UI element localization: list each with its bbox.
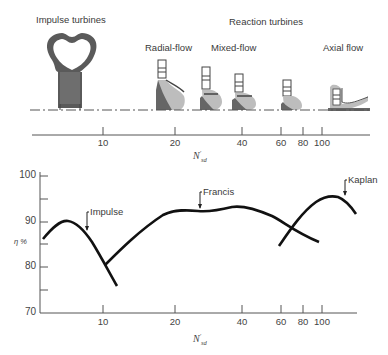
top-tick-100: 100 xyxy=(314,137,330,148)
y-tick-70: 70 xyxy=(16,306,36,317)
impulse-turbine-sketch xyxy=(47,33,96,110)
top-tick-40: 40 xyxy=(237,137,248,148)
top-scale-axis xyxy=(32,127,370,135)
mixed-flow-turbine-sketch-1 xyxy=(200,67,222,110)
x-tick-80: 80 xyxy=(298,316,309,327)
x-tick-10: 10 xyxy=(98,316,109,327)
efficiency-chart-axes xyxy=(40,172,357,313)
x-tick-20: 20 xyxy=(170,316,181,327)
radial-flow-turbine-sketch xyxy=(156,60,185,110)
high-speed-francis-sketch xyxy=(281,80,302,110)
kaplan-annotation: Kaplan xyxy=(348,174,378,185)
y-axis-label: η % xyxy=(14,237,27,246)
x-tick-100: 100 xyxy=(314,316,330,327)
x-tick-60: 60 xyxy=(276,316,287,327)
top-tick-80: 80 xyxy=(298,137,309,148)
top-tick-10: 10 xyxy=(98,137,109,148)
x-axis-label: N′sd xyxy=(193,333,207,346)
mixed-flow-turbine-sketch-2 xyxy=(232,74,256,110)
y-tick-80: 80 xyxy=(16,260,36,271)
diagram-canvas xyxy=(0,0,388,355)
top-tick-20: 20 xyxy=(170,137,181,148)
y-tick-100: 100 xyxy=(16,169,36,180)
y-tick-90: 90 xyxy=(16,215,36,226)
impulse-annotation: Impulse xyxy=(90,206,123,217)
top-axis-label: N′sd xyxy=(193,150,207,163)
francis-annotation: Francis xyxy=(203,186,234,197)
impulse-efficiency-curve xyxy=(43,221,117,286)
top-tick-60: 60 xyxy=(276,137,287,148)
kaplan-efficiency-curve xyxy=(279,196,356,246)
axial-flow-turbine-sketch xyxy=(328,85,370,111)
x-tick-40: 40 xyxy=(237,316,248,327)
